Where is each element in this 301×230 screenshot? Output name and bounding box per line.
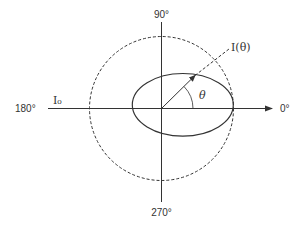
reference-label: I₀: [53, 94, 62, 107]
polar-diagram: 90° 0° 180° 270° I₀ I(θ) θ: [0, 0, 301, 230]
label-0: 0°: [280, 103, 290, 114]
theta-label: θ: [199, 89, 206, 102]
label-90: 90°: [154, 9, 169, 20]
vector-label: I(θ): [231, 41, 251, 54]
intensity-vector: [162, 76, 196, 109]
label-270: 270°: [151, 207, 172, 218]
emission-ellipse: [132, 74, 233, 137]
vector-extension: [195, 49, 229, 76]
label-180: 180°: [15, 103, 36, 114]
theta-arc: [184, 87, 193, 109]
